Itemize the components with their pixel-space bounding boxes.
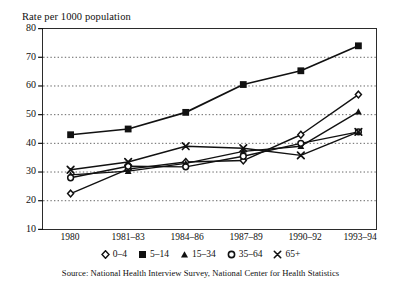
legend-entry-35-64: 35–64 <box>227 249 263 259</box>
y-tick-label-60: 60 <box>12 80 36 90</box>
legend-entry-0-4: 0–4 <box>101 249 127 259</box>
legend-label-0-4: 0–4 <box>113 249 127 259</box>
legend-entry-5-14: 5–14 <box>138 249 169 259</box>
y-tick-label-70: 70 <box>12 52 36 62</box>
triangle-filled-marker-icon <box>180 250 189 259</box>
chart-figure: Rate per 1000 population 80 70 60 50 40 … <box>0 0 401 297</box>
x-tick-label-1987-89: 1987–89 <box>229 232 262 242</box>
legend-entry-65-plus: 65+ <box>273 249 300 259</box>
y-tick-label-30: 30 <box>12 166 36 176</box>
x-tick-label-1993-94: 1993–94 <box>343 232 376 242</box>
cross-marker-icon <box>273 250 282 259</box>
diamond-open-marker-icon <box>101 250 110 259</box>
chart-axis-title: Rate per 1000 population <box>22 11 131 22</box>
square-filled-marker-icon <box>138 250 147 259</box>
legend-label-35-64: 35–64 <box>239 249 263 259</box>
x-tick-label-1990-92: 1990–92 <box>288 232 321 242</box>
plot-area <box>42 28 377 230</box>
x-tick-label-1980: 1980 <box>61 232 80 242</box>
source-note: Source: National Health Interview Survey… <box>0 268 401 278</box>
x-tick-label-1984-86: 1984–86 <box>170 232 203 242</box>
legend-label-15-34: 15–34 <box>192 249 216 259</box>
y-tick-label-80: 80 <box>12 23 36 33</box>
y-tick-label-10: 10 <box>12 224 36 234</box>
legend-label-5-14: 5–14 <box>150 249 169 259</box>
x-tick-label-1981-83: 1981–83 <box>111 232 144 242</box>
y-tick-label-40: 40 <box>12 138 36 148</box>
circle-open-marker-icon <box>227 250 236 259</box>
legend-entry-15-34: 15–34 <box>180 249 216 259</box>
chart-legend: 0–4 5–14 15–34 35–64 65+ <box>0 249 401 259</box>
y-tick-label-50: 50 <box>12 109 36 119</box>
y-tick-label-20: 20 <box>12 195 36 205</box>
legend-label-65-plus: 65+ <box>285 249 300 259</box>
